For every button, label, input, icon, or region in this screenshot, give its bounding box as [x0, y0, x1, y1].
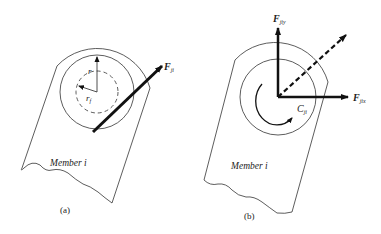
caption-b: (b) — [244, 211, 255, 221]
force-fjiy-label: Fjiy — [272, 13, 286, 25]
friction-radius-label: rf — [86, 93, 93, 104]
member-label-a: Member i — [49, 158, 87, 168]
panel-b: Fjiy Fjix Cji Member i (b) — [204, 13, 366, 221]
friction-radius-arrow — [79, 86, 97, 92]
force-fjix-label: Fjix — [352, 92, 366, 104]
couple-cji-label: Cji — [297, 103, 307, 115]
diagram-canvas: r rf Fji Member i (a) Fjiy Fjix Cji Memb… — [0, 0, 381, 234]
force-fji-label: Fji — [163, 61, 174, 73]
caption-a: (a) — [60, 205, 70, 215]
member-label-b: Member i — [230, 161, 268, 171]
force-fji-arrow — [93, 66, 162, 132]
radius-label: r — [88, 66, 92, 76]
member-outline-a — [21, 49, 150, 203]
panel-a: r rf Fji Member i (a) — [21, 49, 174, 215]
